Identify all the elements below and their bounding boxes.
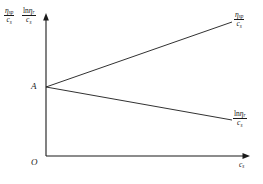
c-subscript-4: s <box>240 122 242 128</box>
x-axis-subscript: s <box>242 163 244 169</box>
y-axis-arrowhead <box>43 13 49 21</box>
eta-r-subscript-2: r <box>244 112 246 118</box>
origin-label: O <box>31 157 38 167</box>
eta-sp-subscript-2: sp <box>239 13 244 19</box>
viscosity-plot-figure: ηsp cs lnηr cs ηsp cs lnηr cs A O cs <box>0 0 263 184</box>
c-subscript-2: s <box>29 19 31 25</box>
intercept-point-label: A <box>31 81 37 91</box>
kraemer-line-label: lnηr cs <box>233 109 247 127</box>
x-axis-label: cs <box>239 160 244 169</box>
x-axis-arrowhead <box>243 153 251 159</box>
plot-canvas <box>0 0 263 184</box>
huggins-line <box>46 22 232 87</box>
y-axis-label-eta-sp-over-cs: ηsp cs <box>4 6 14 24</box>
eta-r-subscript-1: r <box>33 9 35 15</box>
eta-sp-subscript-1: sp <box>9 9 14 15</box>
c-subscript-3: s <box>240 23 242 29</box>
y-axis-label-ln-eta-r-over-cs: lnηr cs <box>22 6 36 24</box>
kraemer-line <box>46 87 232 120</box>
huggins-line-label: ηsp cs <box>234 10 244 28</box>
c-subscript-1: s <box>10 19 12 25</box>
